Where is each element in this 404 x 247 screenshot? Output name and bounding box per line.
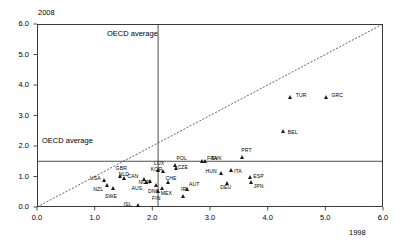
y-tick-label: 6.0 (7, 19, 29, 28)
chart-overlay (0, 0, 404, 247)
data-point-marker (203, 159, 207, 163)
x-tick-label: 1.0 (83, 213, 107, 222)
data-point-marker (111, 186, 115, 190)
x-tick-label: 5.0 (313, 213, 337, 222)
data-point-marker (219, 171, 223, 175)
data-point-label: SVK (211, 155, 222, 161)
data-point-label: AUT (189, 181, 200, 187)
y-tick-label: 5.0 (7, 50, 29, 59)
data-point-label: AUS (132, 185, 143, 191)
y-tick-label: 1.0 (7, 172, 29, 181)
data-point-marker (249, 180, 253, 184)
data-point-label: HUN (206, 168, 217, 174)
y-tick-label: 4.0 (7, 80, 29, 89)
x-tick-label: 4.0 (256, 213, 280, 222)
data-point-marker (166, 180, 170, 184)
data-point-marker (288, 95, 292, 99)
data-point-label: CZE (178, 164, 189, 170)
data-point-label: PRT (241, 147, 251, 153)
data-point-label: BEL (288, 129, 298, 135)
diagonal-reference-line (37, 24, 383, 207)
data-point-marker (105, 183, 109, 187)
data-point-label: FIN (152, 195, 161, 201)
x-tick-label: 3.0 (198, 213, 222, 222)
data-point-label: NZL (93, 186, 103, 192)
data-point-label: KOR (151, 166, 162, 172)
data-point-marker (324, 95, 328, 99)
scatter-chart: 2008 1998 OECD average OECD average 0.01… (0, 0, 404, 247)
data-point-label: CHE (165, 175, 176, 181)
y-tick-label: 0.0 (7, 202, 29, 211)
data-point-label: POL (176, 155, 187, 161)
data-point-label: ISL (123, 201, 131, 207)
data-point-marker (181, 194, 185, 198)
data-point-label: MEX (161, 190, 172, 196)
data-point-label: ESP (253, 173, 264, 179)
data-point-marker (156, 189, 160, 193)
y-tick-label: 2.0 (7, 141, 29, 150)
data-point-label: GRC (331, 92, 343, 98)
data-point-label: DEU (220, 184, 231, 190)
y-tick-label: 3.0 (7, 111, 29, 120)
data-point-label: JPN (254, 183, 264, 189)
data-point-label: GBR (116, 165, 127, 171)
x-tick-label: 2.0 (140, 213, 164, 222)
data-point-marker (281, 129, 285, 133)
data-point-label: SWE (105, 193, 117, 199)
data-point-marker (240, 155, 244, 159)
data-point-marker (102, 178, 106, 182)
data-point-label: CAN (127, 173, 138, 179)
data-point-label: NOR (139, 179, 151, 185)
data-point-marker (136, 203, 140, 207)
data-point-label: TUR (296, 92, 307, 98)
data-point-marker (248, 175, 252, 179)
x-tick-label: 6.0 (371, 213, 395, 222)
data-point-marker (185, 187, 189, 191)
x-tick-label: 0.0 (25, 213, 49, 222)
data-point-label: USA (90, 175, 101, 181)
data-point-marker (229, 168, 233, 172)
data-point-label: ITA (234, 168, 242, 174)
